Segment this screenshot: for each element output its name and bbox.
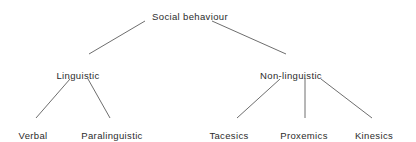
node-verbal: Verbal [18, 130, 47, 141]
node-tacesics: Tacesics [209, 130, 248, 141]
node-social-behaviour: Social behaviour [152, 11, 228, 22]
edge-linguistic-to-paralinguistic [88, 79, 110, 118]
edge-non-linguistic-to-tacesics [237, 79, 280, 118]
edge-root-to-linguistic [89, 21, 145, 54]
node-linguistic: Linguistic [56, 70, 99, 81]
tree-diagram: Social behaviour Linguistic Non-linguist… [0, 0, 416, 142]
node-paralinguistic: Paralinguistic [81, 130, 142, 141]
edge-root-to-non-linguistic [212, 21, 286, 54]
node-proxemics: Proxemics [280, 130, 328, 141]
node-non-linguistic: Non-linguistic [260, 70, 322, 81]
node-kinesics: Kinesics [355, 130, 393, 141]
edge-linguistic-to-verbal [36, 79, 70, 118]
edge-non-linguistic-to-kinesics [321, 79, 372, 118]
